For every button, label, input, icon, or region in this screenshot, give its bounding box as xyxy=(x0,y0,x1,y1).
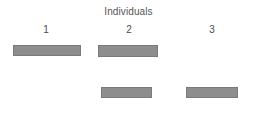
bar-individual-2-row-1[interactable] xyxy=(98,45,158,57)
column-label-3: 3 xyxy=(197,24,227,36)
bar-individual-1-row-1[interactable] xyxy=(13,45,81,56)
bar-individual-2-row-2[interactable] xyxy=(101,87,152,98)
chart-title: Individuals xyxy=(2,6,253,18)
column-label-2: 2 xyxy=(114,24,144,36)
bar-individual-3-row-2[interactable] xyxy=(186,87,238,98)
individuals-chart: Individuals 1 2 3 xyxy=(0,0,253,115)
column-label-1: 1 xyxy=(31,24,61,36)
